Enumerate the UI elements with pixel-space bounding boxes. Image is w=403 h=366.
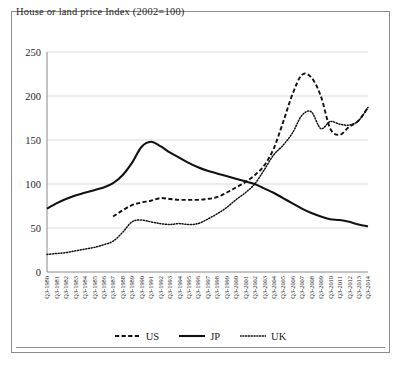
x-axis-tick-group: Q3-2004: [270, 275, 277, 299]
x-axis-label: Q3-2008: [308, 276, 315, 299]
x-axis-label: Q3-2004: [270, 275, 277, 299]
x-axis-tick-group: Q3-1990: [138, 276, 145, 299]
chart-svg: 050100150200250Q3-1980Q3-1981Q3-1982Q3-1…: [0, 0, 403, 366]
x-axis-tick-group: Q3-2010: [327, 276, 334, 299]
x-axis-label: Q3-1995: [185, 276, 192, 299]
x-axis-tick-group: Q3-1988: [119, 276, 126, 299]
x-axis-tick-group: Q3-1986: [100, 276, 107, 299]
x-axis-label: Q3-1994: [176, 275, 183, 299]
x-axis-tick-group: Q3-1994: [176, 275, 183, 299]
x-axis-tick-group: Q3-1996: [194, 276, 201, 299]
x-axis-label: Q3-2010: [327, 276, 334, 299]
x-axis-tick-group: Q3-1995: [185, 276, 192, 299]
legend-label-jp: JP: [210, 331, 220, 342]
series-line-uk: [47, 107, 368, 254]
chart-plot-area: 050100150200250Q3-1980Q3-1981Q3-1982Q3-1…: [0, 0, 403, 366]
x-axis-tick-group: Q3-2008: [308, 276, 315, 299]
x-axis-label: Q3-1981: [53, 276, 60, 299]
x-axis-tick-group: Q3-2007: [298, 275, 305, 299]
legend-swatch-uk: [240, 331, 266, 341]
x-axis-label: Q3-1982: [62, 276, 69, 299]
x-axis-label: Q3-1992: [157, 276, 164, 299]
x-axis-label: Q3-2002: [251, 276, 258, 299]
x-axis-tick-group: Q3-2000: [232, 276, 239, 299]
legend-divider: [16, 347, 385, 348]
y-axis-label-0: 0: [36, 267, 41, 278]
legend-item-uk[interactable]: UK: [240, 331, 286, 342]
x-axis-tick-group: Q3-2005: [279, 276, 286, 299]
x-axis-tick-group: Q3-2002: [251, 276, 258, 299]
x-axis-tick-group: Q3-2006: [289, 276, 296, 299]
chart-legend: USJPUK: [11, 325, 390, 347]
x-axis-tick-group: Q3-2001: [242, 276, 249, 299]
x-axis-tick-group: Q3-1982: [62, 276, 69, 299]
x-axis-label: Q3-2014: [364, 275, 371, 299]
x-axis-label: Q3-2000: [232, 276, 239, 299]
legend-swatch-jp: [179, 331, 205, 341]
x-axis-label: Q3-1997: [204, 275, 211, 299]
y-axis-label-100: 100: [25, 179, 41, 190]
x-axis-label: Q3-2012: [346, 276, 353, 299]
x-axis-label: Q3-2003: [261, 276, 268, 299]
x-axis-tick-group: Q3-2014: [364, 275, 371, 299]
x-axis-tick-group: Q3-1997: [204, 275, 211, 299]
x-axis-label: Q3-2006: [289, 276, 296, 299]
x-axis-label: Q3-1993: [166, 276, 173, 299]
x-axis-tick-group: Q3-1987: [109, 275, 116, 299]
x-axis-tick-group: Q3-2003: [261, 276, 268, 299]
x-axis-label: Q3-1985: [91, 276, 98, 299]
x-axis-label: Q3-1991: [147, 276, 154, 299]
x-axis-tick-group: Q3-2012: [346, 276, 353, 299]
x-axis-label: Q3-2007: [298, 275, 305, 299]
series-line-us: [113, 74, 368, 217]
x-axis-label: Q3-1986: [100, 276, 107, 299]
x-axis-label: Q3-1987: [109, 275, 116, 299]
x-axis-label: Q3-1998: [213, 276, 220, 299]
x-axis-label: Q3-1980: [43, 276, 50, 299]
x-axis-label: Q3-1999: [223, 276, 230, 299]
x-axis-tick-group: Q3-1981: [53, 276, 60, 299]
x-axis-tick-group: Q3-1983: [72, 276, 79, 299]
legend-item-jp[interactable]: JP: [179, 331, 220, 342]
x-axis-tick-group: Q3-2009: [317, 276, 324, 299]
x-axis-label: Q3-1988: [119, 276, 126, 299]
x-axis-label: Q3-2005: [279, 276, 286, 299]
x-axis-label: Q3-2011: [336, 276, 343, 298]
x-axis-label: Q3-1996: [194, 276, 201, 299]
x-axis-tick-group: Q3-1992: [157, 276, 164, 299]
x-axis-tick-group: Q3-1980: [43, 276, 50, 299]
x-axis-tick-group: Q3-1993: [166, 276, 173, 299]
x-axis-tick-group: Q3-1985: [91, 276, 98, 299]
x-axis-tick-group: Q3-2011: [336, 276, 343, 298]
x-axis-label: Q3-1990: [138, 276, 145, 299]
x-axis-tick-group: Q3-1998: [213, 276, 220, 299]
x-axis-tick-group: Q3-1991: [147, 276, 154, 299]
legend-label-us: US: [146, 331, 159, 342]
x-axis-label: Q3-2013: [355, 276, 362, 299]
x-axis-tick-group: Q3-1999: [223, 276, 230, 299]
y-axis-label-50: 50: [31, 223, 42, 234]
x-axis-tick-group: Q3-2013: [355, 276, 362, 299]
x-axis-label: Q3-2009: [317, 276, 324, 299]
x-axis-label: Q3-1984: [81, 275, 88, 299]
legend-label-uk: UK: [271, 331, 286, 342]
x-axis-label: Q3-1989: [128, 276, 135, 299]
x-axis-label: Q3-2001: [242, 276, 249, 299]
x-axis-label: Q3-1983: [72, 276, 79, 299]
legend-swatch-us: [115, 331, 141, 341]
x-axis-tick-group: Q3-1984: [81, 275, 88, 299]
x-axis-tick-group: Q3-1989: [128, 276, 135, 299]
y-axis-label-150: 150: [25, 135, 41, 146]
y-axis-label-200: 200: [25, 91, 41, 102]
legend-item-us[interactable]: US: [115, 331, 159, 342]
y-axis-label-250: 250: [25, 47, 41, 58]
